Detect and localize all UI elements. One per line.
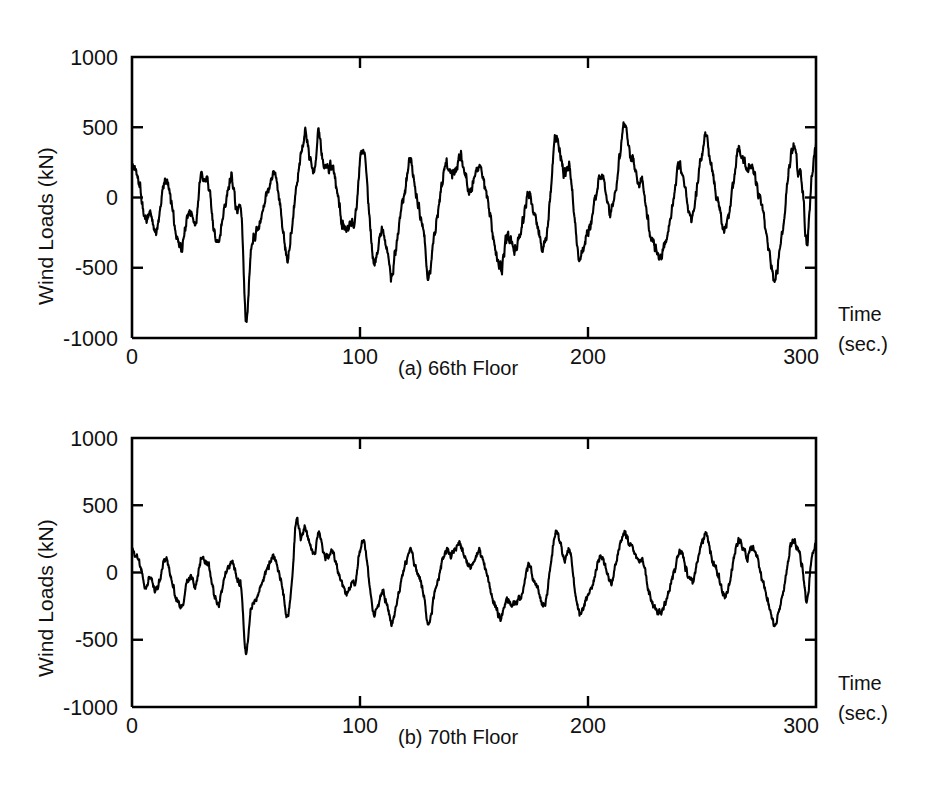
x-tick-label: 200 bbox=[570, 345, 606, 369]
y-tick-label: -500 bbox=[75, 256, 118, 280]
data-series-line bbox=[132, 518, 816, 654]
y-tick-label: 500 bbox=[82, 494, 118, 518]
y-tick-label: 0 bbox=[106, 561, 118, 585]
y-tick-label: 1000 bbox=[70, 427, 118, 451]
y-tick-label: -1000 bbox=[63, 696, 118, 720]
y-tick-label: 1000 bbox=[70, 46, 118, 70]
x-tick-label: 300 bbox=[783, 345, 819, 369]
x-axis-unit-time-a: Time bbox=[838, 303, 882, 326]
chart-panel-a: -1000-500050010000100200300 Wind Loads (… bbox=[0, 0, 937, 400]
panel-caption-b: (b) 70th Floor bbox=[398, 726, 518, 749]
data-series-line bbox=[132, 122, 816, 322]
chart-panel-b: -1000-500050010000100200300 Wind Loads (… bbox=[0, 380, 937, 799]
x-axis-unit-sec-b: (sec.) bbox=[838, 702, 888, 725]
x-tick-label: 0 bbox=[126, 714, 138, 738]
y-axis-title-a: Wind Loads (kN) bbox=[34, 147, 58, 305]
x-tick-label: 100 bbox=[342, 345, 378, 369]
x-tick-label: 0 bbox=[126, 345, 138, 369]
y-tick-label: -500 bbox=[75, 628, 118, 652]
plot-area-a: -1000-500050010000100200300 bbox=[0, 0, 937, 400]
y-tick-label: 0 bbox=[106, 186, 118, 210]
y-tick-label: 500 bbox=[82, 116, 118, 140]
x-tick-label: 100 bbox=[342, 714, 378, 738]
figure-canvas: -1000-500050010000100200300 Wind Loads (… bbox=[0, 0, 937, 799]
y-tick-label: -1000 bbox=[63, 327, 118, 351]
y-axis-title-b: Wind Loads (kN) bbox=[34, 519, 58, 677]
panel-caption-a: (a) 66th Floor bbox=[398, 357, 518, 380]
x-axis-unit-sec-a: (sec.) bbox=[838, 333, 888, 356]
x-tick-label: 200 bbox=[570, 714, 606, 738]
x-tick-label: 300 bbox=[783, 714, 819, 738]
x-axis-unit-time-b: Time bbox=[838, 672, 882, 695]
